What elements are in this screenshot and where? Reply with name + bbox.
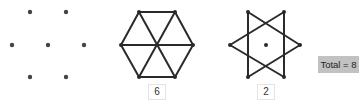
triangle-left-pointing bbox=[230, 12, 284, 77]
triangle-counting-diagram bbox=[0, 0, 363, 104]
hexagon-with-diagonals bbox=[121, 12, 193, 77]
dot bbox=[64, 10, 68, 14]
dot bbox=[28, 10, 32, 14]
center-dot bbox=[264, 43, 268, 47]
dot-grid bbox=[10, 10, 86, 79]
dot bbox=[82, 43, 86, 47]
dot bbox=[46, 43, 50, 47]
triangle-right-pointing bbox=[248, 12, 300, 77]
total-badge: Total = 8 bbox=[318, 56, 359, 73]
hexagon-count-label: 6 bbox=[148, 84, 166, 100]
dot bbox=[10, 43, 14, 47]
dot bbox=[28, 75, 32, 79]
dot bbox=[64, 75, 68, 79]
star-count-label: 2 bbox=[257, 84, 275, 100]
star-vertices bbox=[228, 10, 302, 79]
